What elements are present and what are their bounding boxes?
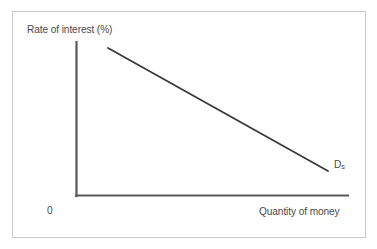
- y-axis-label: Rate of interest (%): [27, 23, 112, 36]
- curve-label-main: D: [334, 158, 341, 170]
- figure-root: Rate of interest (%) Quantity of money 0…: [0, 0, 377, 249]
- demand-curve-label: Ds: [334, 158, 345, 173]
- origin-label: 0: [47, 204, 53, 217]
- x-axis-label: Quantity of money: [259, 205, 340, 218]
- curve-label-subscript: s: [341, 162, 345, 171]
- money-demand-curve: [108, 48, 328, 171]
